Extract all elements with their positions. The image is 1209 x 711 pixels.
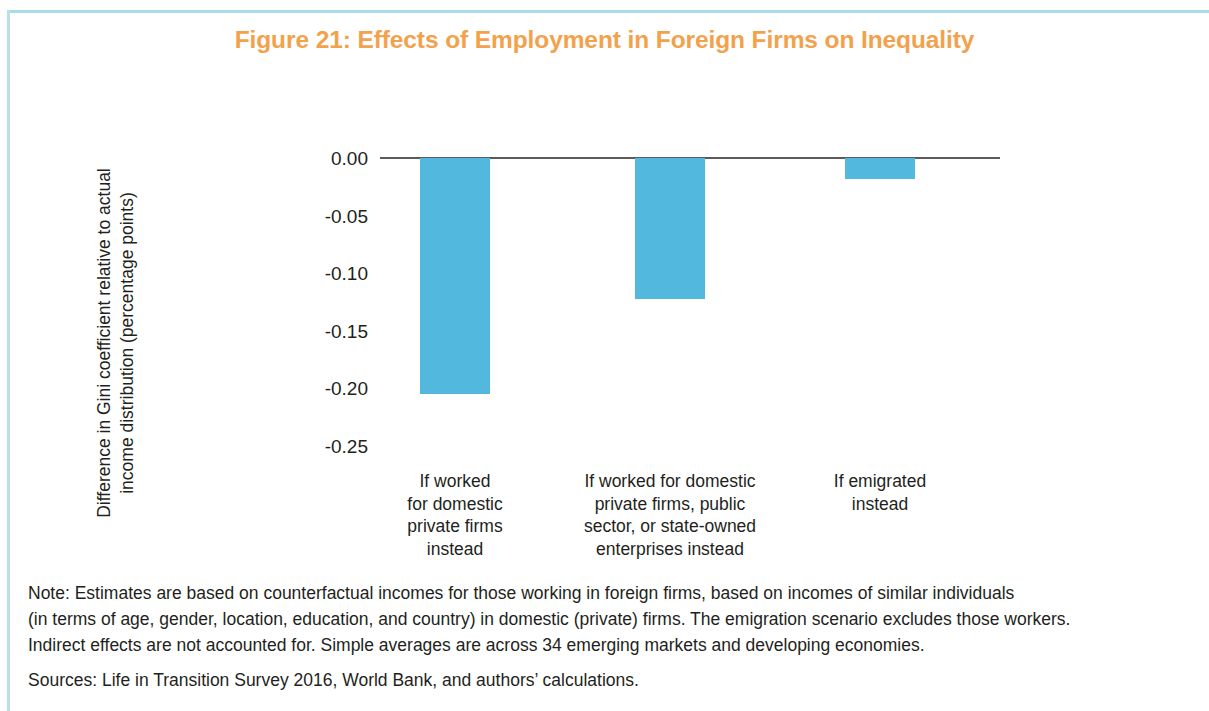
x-axis-category-labels: If worked for domestic private firms ins… xyxy=(360,470,1020,560)
note-line: Indirect effects are not accounted for. … xyxy=(28,632,1193,658)
bar xyxy=(845,158,915,179)
sources-text: Sources: Life in Transition Survey 2016,… xyxy=(28,667,1193,693)
y-tick-label: -0.25 xyxy=(282,437,368,456)
y-tick-label: -0.10 xyxy=(282,264,368,283)
x-category-label: If worked for domestic private firms, pu… xyxy=(530,470,810,560)
note-line: Note: Estimates are based on counterfact… xyxy=(28,580,1193,606)
footnotes: Note: Estimates are based on counterfact… xyxy=(28,580,1193,693)
y-tick-label: 0.00 xyxy=(282,149,368,168)
bar-chart: Difference in Gini coefficient relative … xyxy=(0,0,1209,560)
note-line: (in terms of age, gender, location, educ… xyxy=(28,606,1193,632)
x-category-label: If worked for domestic private firms ins… xyxy=(355,470,555,560)
y-axis-title: Difference in Gini coefficient relative … xyxy=(93,143,139,543)
y-tick-label: -0.20 xyxy=(282,379,368,398)
bar xyxy=(420,158,490,394)
x-category-label: If emigrated instead xyxy=(780,470,980,515)
note-text: Note: Estimates are based on counterfact… xyxy=(28,580,1193,658)
y-tick-label: -0.05 xyxy=(282,207,368,226)
y-tick-label: -0.15 xyxy=(282,322,368,341)
bar xyxy=(635,158,705,299)
